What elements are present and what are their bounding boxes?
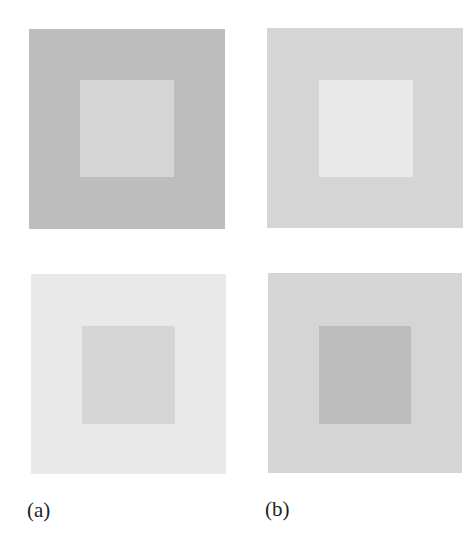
square-b-bottom-inner: [319, 326, 411, 424]
label-a: (a): [27, 500, 50, 521]
label-b: (b): [265, 499, 290, 520]
square-a-bottom-outer: [31, 274, 226, 474]
square-a-bottom-inner: [82, 326, 175, 424]
square-b-bottom-outer: [268, 273, 462, 473]
square-a-top-inner: [80, 80, 174, 177]
square-b-top-outer: [267, 28, 463, 228]
square-a-top-outer: [29, 29, 225, 229]
square-b-top-inner: [319, 80, 413, 177]
